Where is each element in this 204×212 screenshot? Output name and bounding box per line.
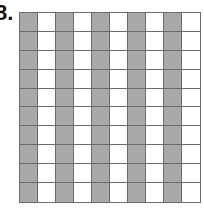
grid-cell-unshaded <box>146 51 164 70</box>
grid-cell-shaded <box>128 164 146 183</box>
grid-cell-unshaded <box>74 164 92 183</box>
grid-cell-unshaded <box>146 107 164 126</box>
grid-cell-shaded <box>56 13 74 32</box>
grid-cell-shaded <box>56 126 74 145</box>
grid-cell-unshaded <box>146 32 164 51</box>
grid-cell-shaded <box>128 32 146 51</box>
grid-cell-unshaded <box>182 107 200 126</box>
grid-cell-unshaded <box>74 107 92 126</box>
grid-cell-unshaded <box>38 107 56 126</box>
grid-cell-shaded <box>20 32 38 51</box>
grid-cell-unshaded <box>74 13 92 32</box>
grid-cell-shaded <box>20 145 38 164</box>
grid-cell-unshaded <box>146 13 164 32</box>
grid-cell-unshaded <box>182 183 200 202</box>
grid-cell-unshaded <box>146 164 164 183</box>
grid-cell-unshaded <box>146 70 164 89</box>
grid-cell-shaded <box>92 145 110 164</box>
grid-cell-shaded <box>92 164 110 183</box>
grid-cell-shaded <box>92 70 110 89</box>
grid-cell-unshaded <box>146 89 164 108</box>
grid-cell-shaded <box>20 183 38 202</box>
hundred-grid <box>19 12 201 203</box>
grid-cell-unshaded <box>74 183 92 202</box>
grid-cell-unshaded <box>146 183 164 202</box>
grid-cell-shaded <box>164 164 182 183</box>
grid-cell-shaded <box>128 13 146 32</box>
grid-cell-shaded <box>164 183 182 202</box>
grid-cell-shaded <box>92 126 110 145</box>
grid-cell-unshaded <box>38 51 56 70</box>
grid-cell-unshaded <box>110 107 128 126</box>
grid-cell-unshaded <box>74 89 92 108</box>
grid-cell-shaded <box>56 107 74 126</box>
grid-cell-shaded <box>92 89 110 108</box>
grid-cell-unshaded <box>38 32 56 51</box>
grid-cell-shaded <box>20 89 38 108</box>
problem-number-label: 8. <box>0 2 13 24</box>
grid-cell-shaded <box>56 70 74 89</box>
grid-cell-shaded <box>128 107 146 126</box>
grid-cell-unshaded <box>74 70 92 89</box>
grid-cell-shaded <box>92 183 110 202</box>
grid-cell-unshaded <box>38 70 56 89</box>
grid-cell-shaded <box>92 107 110 126</box>
grid-cell-unshaded <box>146 126 164 145</box>
grid-cell-unshaded <box>38 145 56 164</box>
grid-cell-shaded <box>164 32 182 51</box>
grid-cell-shaded <box>128 126 146 145</box>
grid-cell-shaded <box>92 51 110 70</box>
grid-cell-unshaded <box>38 89 56 108</box>
grid-cell-shaded <box>164 126 182 145</box>
grid-cell-unshaded <box>110 145 128 164</box>
grid-cell-shaded <box>128 183 146 202</box>
grid-cell-unshaded <box>110 164 128 183</box>
grid-cell-shaded <box>164 70 182 89</box>
grid-cell-unshaded <box>74 145 92 164</box>
grid-cell-shaded <box>128 89 146 108</box>
grid-cell-shaded <box>92 32 110 51</box>
grid-cell-unshaded <box>182 145 200 164</box>
grid-cell-shaded <box>56 32 74 51</box>
grid-cell-unshaded <box>182 89 200 108</box>
grid-cell-shaded <box>164 51 182 70</box>
grid-cell-unshaded <box>74 51 92 70</box>
grid-cell-unshaded <box>74 126 92 145</box>
grid-cell-shaded <box>56 183 74 202</box>
grid-cell-unshaded <box>110 126 128 145</box>
grid-cell-unshaded <box>110 51 128 70</box>
grid-cell-shaded <box>164 107 182 126</box>
grid-cell-unshaded <box>38 13 56 32</box>
grid-cell-shaded <box>56 145 74 164</box>
grid-cell-shaded <box>56 89 74 108</box>
grid-cell-shaded <box>164 145 182 164</box>
grid-cell-shaded <box>56 51 74 70</box>
grid-cell-shaded <box>20 164 38 183</box>
grid-cell-shaded <box>164 13 182 32</box>
grid-cell-unshaded <box>110 89 128 108</box>
grid-cell-unshaded <box>74 32 92 51</box>
grid-cell-unshaded <box>182 126 200 145</box>
grid-cell-shaded <box>20 126 38 145</box>
grid-cell-shaded <box>20 107 38 126</box>
grid-cell-shaded <box>20 51 38 70</box>
grid-cell-unshaded <box>182 51 200 70</box>
grid-cell-unshaded <box>182 164 200 183</box>
grid-cell-unshaded <box>146 145 164 164</box>
grid-cell-shaded <box>128 51 146 70</box>
grid-cell-shaded <box>56 164 74 183</box>
grid-cell-shaded <box>164 89 182 108</box>
grid-cell-unshaded <box>38 164 56 183</box>
grid-cell-shaded <box>128 70 146 89</box>
grid-cell-unshaded <box>38 126 56 145</box>
grid-cell-unshaded <box>110 183 128 202</box>
grid-cell-unshaded <box>110 70 128 89</box>
grid-cell-shaded <box>128 145 146 164</box>
grid-cell-unshaded <box>38 183 56 202</box>
grid-cell-unshaded <box>110 32 128 51</box>
grid-cell-shaded <box>20 13 38 32</box>
grid-cell-shaded <box>92 13 110 32</box>
grid-cell-unshaded <box>182 70 200 89</box>
grid-cell-unshaded <box>182 32 200 51</box>
grid-cell-shaded <box>20 70 38 89</box>
